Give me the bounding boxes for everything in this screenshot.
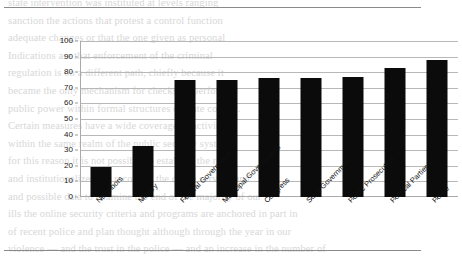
y-tick-label: 80	[64, 68, 73, 76]
y-tick-mark	[75, 72, 78, 73]
bar[interactable]	[259, 78, 280, 197]
y-tick-label: 50	[64, 115, 73, 123]
y-tick-label: 40	[64, 131, 73, 139]
y-tick-label: 10	[64, 177, 73, 185]
bar[interactable]	[427, 60, 448, 197]
bar-slot	[164, 41, 206, 197]
bar[interactable]	[217, 80, 238, 197]
bar[interactable]	[301, 78, 322, 197]
y-tick-mark	[75, 56, 78, 57]
y-tick-mark	[75, 87, 78, 88]
y-tick-label: 100	[60, 37, 73, 45]
bar-slot	[122, 41, 164, 197]
y-tick-mark	[75, 197, 78, 198]
x-axis: NeighborsMilitaryFederal GovernmentMunic…	[80, 199, 458, 261]
y-tick-label: 60	[64, 99, 73, 107]
page-rule-top	[4, 7, 421, 8]
y-tick-mark	[75, 103, 78, 104]
y-tick-label: 70	[64, 84, 73, 92]
y-tick-label: 90	[64, 53, 73, 61]
y-tick-label: 0	[69, 193, 73, 201]
bar-slot	[80, 41, 122, 197]
y-tick-label: 30	[64, 146, 73, 154]
bar[interactable]	[343, 77, 364, 197]
y-axis: 0102030405060708090100	[40, 41, 78, 197]
chart-bars	[80, 41, 458, 197]
bar-chart-figure: 0102030405060708090100 NeighborsMilitary…	[40, 16, 462, 261]
y-tick-mark	[75, 119, 78, 120]
bar[interactable]	[175, 80, 196, 197]
y-tick-mark	[75, 41, 78, 42]
y-tick-mark	[75, 165, 78, 166]
y-tick-label: 20	[64, 162, 73, 170]
y-tick-mark	[75, 181, 78, 182]
bar-slot	[290, 41, 332, 197]
y-tick-mark	[75, 134, 78, 135]
bar[interactable]	[385, 68, 406, 197]
y-tick-mark	[75, 150, 78, 151]
